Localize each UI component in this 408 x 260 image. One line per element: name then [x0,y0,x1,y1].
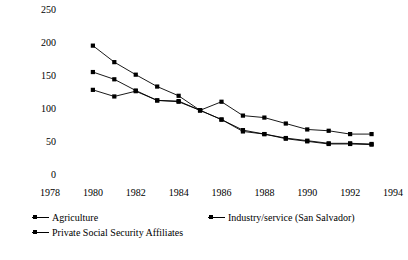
data-point [134,89,138,93]
data-point [369,142,373,146]
data-point [219,100,223,104]
legend-marker-icon [32,216,49,219]
data-point [262,132,266,136]
data-point [327,141,331,145]
data-point [241,129,245,133]
legend-label: Industry/service (San Salvador) [228,212,355,223]
data-point [112,77,116,81]
data-point [284,136,288,140]
data-point [91,70,95,74]
data-point [305,127,309,131]
data-point [91,44,95,48]
data-point [112,94,116,98]
data-point [348,132,352,136]
data-point [327,129,331,133]
data-point [134,73,138,77]
legend-marker-icon [208,216,225,219]
series-0 [91,44,374,137]
series-2 [91,88,374,146]
chart-legend: AgricultureIndustry/service (San Salvado… [0,212,403,252]
data-point [91,88,95,92]
data-point [177,100,181,104]
data-point [305,139,309,143]
data-point [198,108,202,112]
data-point [219,117,223,121]
data-point [262,115,266,119]
legend-marker-icon [32,231,49,234]
series-line [93,90,372,144]
legend-label: Private Social Security Affiliates [52,227,183,238]
data-point [155,98,159,102]
data-point [241,114,245,118]
legend-label: Agriculture [52,212,98,223]
data-point [284,121,288,125]
data-point [348,141,352,145]
data-point [112,60,116,64]
data-point [155,84,159,88]
data-point [177,94,181,98]
data-point [369,132,373,136]
